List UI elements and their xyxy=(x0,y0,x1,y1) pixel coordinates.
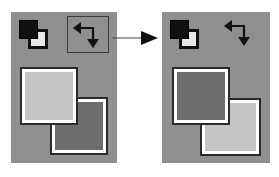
swap-colors-button-highlighted[interactable] xyxy=(67,16,109,53)
foreground-color-swatch[interactable] xyxy=(20,67,78,125)
color-picker-before-panel xyxy=(11,12,117,163)
arrow-right-icon xyxy=(112,30,162,46)
default-colors-icon[interactable] xyxy=(170,20,200,50)
default-colors-icon[interactable] xyxy=(19,20,49,50)
swap-colors-icon[interactable] xyxy=(223,18,257,48)
default-foreground-square xyxy=(170,20,189,39)
foreground-color-swatch[interactable] xyxy=(172,67,230,125)
color-picker-after-panel xyxy=(162,12,270,163)
default-foreground-square xyxy=(19,20,38,39)
swap-arrows-icon xyxy=(72,20,106,50)
